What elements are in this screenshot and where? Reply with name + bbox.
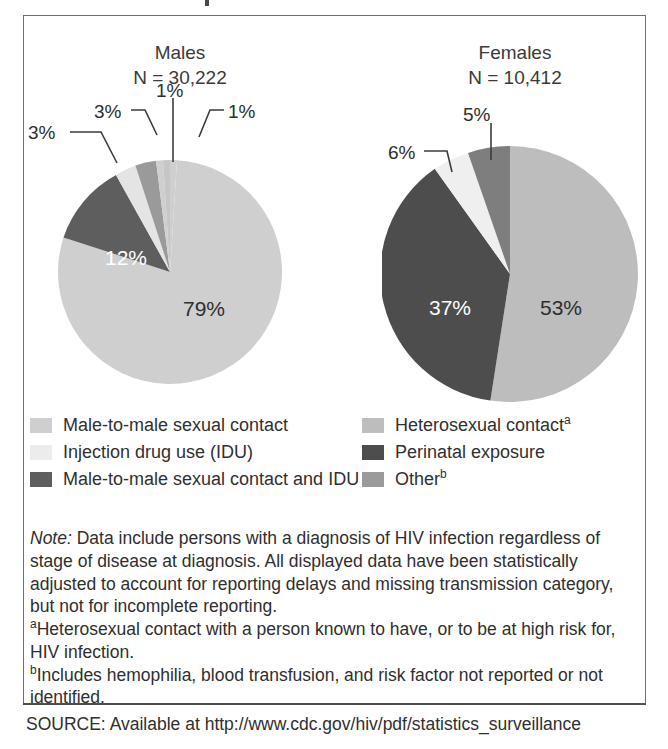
legend-column-left: Male-to-male sexual contact Injection dr…	[30, 414, 360, 495]
footnote-a: aHeterosexual contact with a person know…	[30, 618, 634, 664]
legend-footnote-marker-a: a	[564, 413, 571, 427]
legend-footnote-marker-b: b	[440, 467, 447, 481]
legend-swatch-other	[362, 472, 384, 487]
legend-label-heterosexual: Heterosexual contacta	[395, 414, 632, 437]
footnote-a-marker: a	[30, 617, 37, 631]
legend-swatch-idu	[30, 445, 52, 460]
legend-label-idu: Injection drug use (IDU)	[63, 441, 360, 464]
note-paragraph: Note: Data include persons with a diagno…	[30, 527, 634, 618]
legend-swatch-heterosexual	[362, 418, 384, 433]
leader-6	[424, 151, 452, 172]
source-line: SOURCE: Available at http://www.cdc.gov/…	[26, 714, 656, 735]
legend-item-other: Otherb	[362, 468, 632, 491]
legend-swatch-perinatal	[362, 445, 384, 460]
legend-label-perinatal: Perinatal exposure	[395, 441, 632, 464]
legend-item-perinatal: Perinatal exposure	[362, 441, 632, 464]
footnote-a-text: Heterosexual contact with a person known…	[30, 619, 615, 662]
legend-item-heterosexual: Heterosexual contacta	[362, 414, 632, 437]
legend-item-male-to-male-and-idu: Male-to-male sexual contact and IDU	[30, 468, 360, 491]
footnote-b-text: Includes hemophilia, blood transfusion, …	[30, 665, 603, 708]
legend-swatch-male-to-male-and-idu	[30, 472, 52, 487]
female-callout-lines	[0, 0, 668, 430]
legend-label-other: Otherb	[395, 468, 632, 491]
notes-block: Note: Data include persons with a diagno…	[30, 527, 634, 709]
legend-item-male-to-male: Male-to-male sexual contact	[30, 414, 360, 437]
legend-label-male-to-male: Male-to-male sexual contact	[63, 414, 360, 437]
note-body: Data include persons with a diagnosis of…	[30, 528, 613, 616]
legend-swatch-male-to-male	[30, 418, 52, 433]
legend-column-right: Heterosexual contacta Perinatal exposure…	[362, 414, 632, 495]
note-label: Note:	[30, 528, 72, 548]
legend-item-idu: Injection drug use (IDU)	[30, 441, 360, 464]
legend-label-male-to-male-and-idu: Male-to-male sexual contact and IDU	[63, 468, 360, 491]
footnote-b-marker: b	[30, 663, 37, 677]
source-divider	[23, 703, 646, 705]
